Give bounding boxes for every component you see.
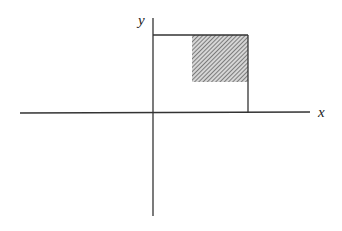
shaded-region [192, 35, 248, 82]
x-axis [20, 112, 310, 113]
x-axis-label: x [317, 104, 325, 120]
coordinate-diagram: x y [0, 0, 342, 231]
y-axis-label: y [136, 12, 145, 28]
